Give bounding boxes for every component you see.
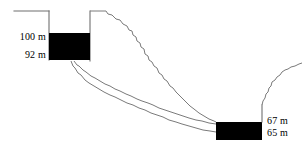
upstream-structure-block (49, 33, 90, 60)
downstream-crest-elevation-label: 67 m (267, 115, 303, 126)
downstream-invert-elevation-label: 65 m (267, 127, 303, 138)
upstream-crest-elevation-label: 100 m (4, 31, 46, 42)
cross-section-drawing (0, 0, 303, 147)
upstream-invert-elevation-label: 92 m (4, 49, 46, 60)
downstream-structure-block (216, 122, 262, 140)
elevation-cross-section-figure: 100 m 92 m 67 m 65 m (0, 0, 303, 147)
